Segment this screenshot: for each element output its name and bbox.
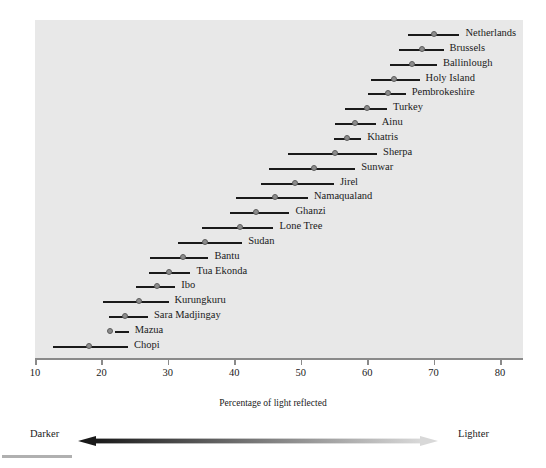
axis-tick-label: 80 [495, 367, 506, 378]
range-row: Tua Ekonda [35, 266, 523, 280]
x-axis: 1020304050607080 [0, 358, 546, 398]
range-line [150, 257, 208, 259]
mean-point [272, 194, 278, 200]
range-row: Mazua [35, 325, 523, 339]
mean-point [364, 105, 370, 111]
mean-point [107, 328, 113, 334]
range-row: Turkey [35, 102, 523, 116]
mean-point [311, 165, 317, 171]
row-label: Ballinlough [443, 56, 493, 70]
mean-point [86, 343, 92, 349]
mean-point [166, 269, 172, 275]
mean-point [136, 298, 142, 304]
range-line [230, 212, 290, 214]
mean-point [352, 120, 358, 126]
row-label: Turkey [393, 100, 423, 114]
range-row: Lone Tree [35, 221, 523, 235]
row-label: Brussels [450, 41, 486, 55]
mean-point [332, 150, 338, 156]
axis-tick-label: 60 [362, 367, 373, 378]
axis-tick [168, 358, 170, 365]
mean-point [419, 46, 425, 52]
mean-point [409, 61, 415, 67]
axis-tick [500, 358, 502, 365]
reflectance-chart-figure: NetherlandsBrusselsBallinloughHoly Islan… [0, 0, 546, 468]
axis-tick-label: 30 [163, 367, 174, 378]
axis-tick [301, 358, 303, 365]
legend-label-lighter: Lighter [458, 428, 489, 439]
row-label: Bantu [214, 249, 239, 263]
mean-point [292, 180, 298, 186]
range-line [178, 242, 242, 244]
row-label: Namaqualand [314, 189, 372, 203]
row-label: Netherlands [465, 26, 516, 40]
mean-point [431, 31, 437, 37]
axis-tick [101, 358, 103, 365]
legend-label-darker: Darker [30, 428, 59, 439]
range-row: Chopi [35, 340, 523, 354]
mean-point [202, 239, 208, 245]
axis-tick-label: 50 [295, 367, 306, 378]
range-row: Jirel [35, 177, 523, 191]
range-row: Pembrokeshire [35, 87, 523, 101]
footer-rule [2, 455, 72, 458]
row-label: Pembrokeshire [412, 85, 475, 99]
range-row: Khatris [35, 132, 523, 146]
mean-point [253, 209, 259, 215]
row-label: Chopi [134, 338, 160, 352]
row-label: Ainu [382, 115, 403, 129]
range-row: Kurungkuru [35, 295, 523, 309]
axis-tick-label: 40 [229, 367, 240, 378]
mean-point [344, 135, 350, 141]
mean-point [385, 90, 391, 96]
row-label: Kurungkuru [175, 293, 226, 307]
row-label: Jirel [340, 175, 358, 189]
darker-lighter-legend: Darker Lighter [0, 424, 546, 450]
range-row: Ainu [35, 117, 523, 131]
mean-point [180, 254, 186, 260]
mean-point [154, 283, 160, 289]
row-label: Tua Ekonda [196, 264, 247, 278]
mean-point [237, 224, 243, 230]
row-label: Ibo [181, 278, 195, 292]
plot-area: NetherlandsBrusselsBallinloughHoly Islan… [35, 20, 523, 358]
range-row: Ibo [35, 280, 523, 294]
row-label: Ghanzi [295, 204, 325, 218]
range-line [109, 316, 148, 318]
row-label: Sara Madjingay [154, 308, 221, 322]
mean-point [122, 313, 128, 319]
axis-tick [234, 358, 236, 365]
range-line [115, 331, 128, 333]
mean-point [391, 76, 397, 82]
range-row: Bantu [35, 251, 523, 265]
gradient-arrow-icon [78, 432, 438, 442]
range-row: Namaqualand [35, 191, 523, 205]
range-row: Sunwar [35, 162, 523, 176]
axis-line [35, 358, 523, 360]
row-label: Sherpa [383, 145, 412, 159]
range-row: Sherpa [35, 147, 523, 161]
row-label: Khatris [367, 130, 398, 144]
row-label: Mazua [135, 323, 164, 337]
axis-tick-label: 20 [96, 367, 107, 378]
axis-tick [35, 358, 37, 365]
row-label: Lone Tree [279, 219, 322, 233]
row-label: Sunwar [361, 160, 393, 174]
axis-tick-label: 10 [30, 367, 41, 378]
row-label: Sudan [248, 234, 274, 248]
axis-tick [434, 358, 436, 365]
axis-tick-label: 70 [428, 367, 439, 378]
axis-tick [367, 358, 369, 365]
axis-title: Percentage of light reflected [0, 398, 546, 408]
range-row: Sara Madjingay [35, 310, 523, 324]
range-row: Sudan [35, 236, 523, 250]
row-label: Holy Island [426, 71, 475, 85]
